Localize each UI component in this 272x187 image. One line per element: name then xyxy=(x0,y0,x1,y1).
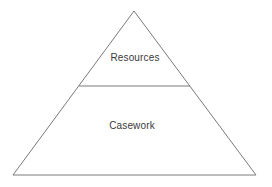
pyramid-diagram-canvas: Resources Casework xyxy=(0,0,272,187)
pyramid-tier-label-casework: Casework xyxy=(109,120,155,131)
pyramid-outline xyxy=(13,11,256,175)
pyramid-tier-label-resources: Resources xyxy=(110,52,159,63)
pyramid-shape-svg xyxy=(0,0,272,187)
